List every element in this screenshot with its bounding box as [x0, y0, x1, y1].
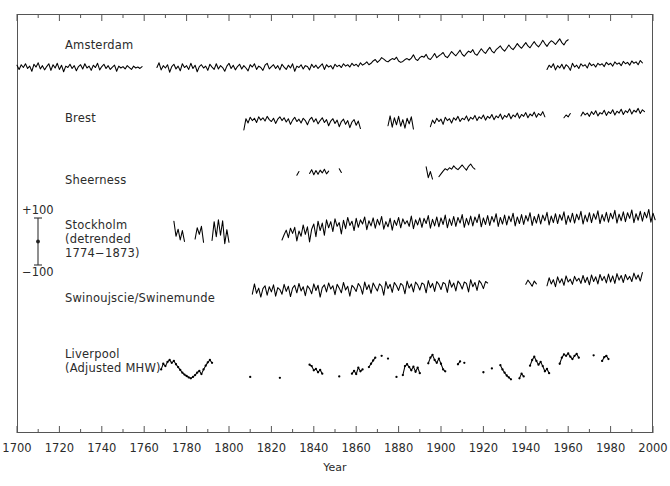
series-label-stockholm-line2: (detrended [65, 232, 140, 246]
x-axis-title: Year [0, 461, 670, 474]
series-label-swinoujscie: Swinoujscie/Swinemunde [65, 291, 215, 305]
series-label-liverpool-line2: (Adjusted MHW) [65, 361, 161, 375]
series-label-liverpool-line1: Liverpool [65, 347, 161, 361]
series-label-sheerness: Sheerness [65, 173, 126, 187]
x-tick-label: 2000 [623, 441, 670, 455]
series-label-stockholm-line3: 1774−1873) [65, 246, 140, 260]
chart-figure: +100 −100 Amsterdam Brest Sheerness Stoc… [0, 0, 670, 486]
series-label-brest: Brest [65, 111, 96, 125]
scale-bar-top-label: +100 [22, 203, 54, 217]
series-label-stockholm: Stockholm (detrended 1774−1873) [65, 218, 140, 260]
scale-bar-bottom-label: −100 [22, 265, 54, 279]
series-label-liverpool: Liverpool (Adjusted MHW) [65, 347, 161, 375]
series-label-amsterdam: Amsterdam [65, 38, 134, 52]
series-label-stockholm-line1: Stockholm [65, 218, 140, 232]
